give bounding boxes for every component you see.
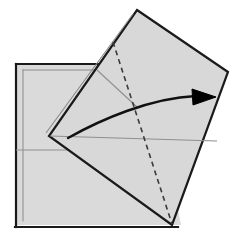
diagram-svg xyxy=(0,0,244,244)
origami-diagram xyxy=(0,0,244,244)
